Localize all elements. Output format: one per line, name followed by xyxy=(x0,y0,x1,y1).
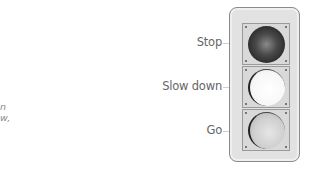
fragment-line-2: w, xyxy=(0,112,10,123)
screw-icon xyxy=(285,103,287,105)
screw-icon xyxy=(245,146,247,148)
screw-icon xyxy=(245,26,247,28)
panel-go xyxy=(242,109,290,151)
label-slow-down: Slow down xyxy=(162,79,222,93)
slow-down-lamp xyxy=(248,69,285,106)
screw-icon xyxy=(285,26,287,28)
screw-icon xyxy=(245,69,247,71)
stop-lamp xyxy=(248,26,285,63)
fragment-line-1: n xyxy=(0,101,6,112)
go-lamp xyxy=(248,112,285,149)
panel-stop xyxy=(242,23,290,65)
label-go: Go xyxy=(206,123,222,137)
traffic-light-housing xyxy=(229,7,300,162)
screw-icon xyxy=(245,60,247,62)
screw-icon xyxy=(245,103,247,105)
panel-slow-down xyxy=(242,66,290,108)
screw-icon xyxy=(285,60,287,62)
screw-icon xyxy=(285,112,287,114)
label-stop: Stop xyxy=(197,35,222,49)
screw-icon xyxy=(245,112,247,114)
screw-icon xyxy=(285,69,287,71)
screw-icon xyxy=(285,146,287,148)
